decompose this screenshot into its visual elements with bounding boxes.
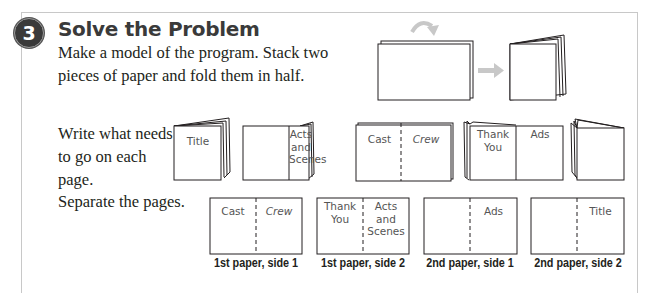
sheet-4-right-label: Title (577, 205, 624, 218)
sheet-4-caption: 2nd paper, side 2 (529, 256, 628, 270)
